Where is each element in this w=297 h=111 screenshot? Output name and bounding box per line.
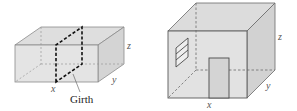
package-box: x y z Girth xyxy=(15,27,131,105)
room-box: x y z xyxy=(168,3,282,110)
label-girth: Girth xyxy=(70,93,94,105)
label-y-left: y xyxy=(111,74,117,85)
figure-canvas: x y z Girth x y z xyxy=(0,0,297,111)
label-y-right: y xyxy=(265,80,271,91)
door xyxy=(209,58,229,98)
label-x-left: x xyxy=(50,83,56,94)
room-front-face xyxy=(168,31,247,98)
label-z-right: z xyxy=(277,31,282,42)
label-z-left: z xyxy=(126,40,131,51)
label-x-right: x xyxy=(206,99,212,110)
